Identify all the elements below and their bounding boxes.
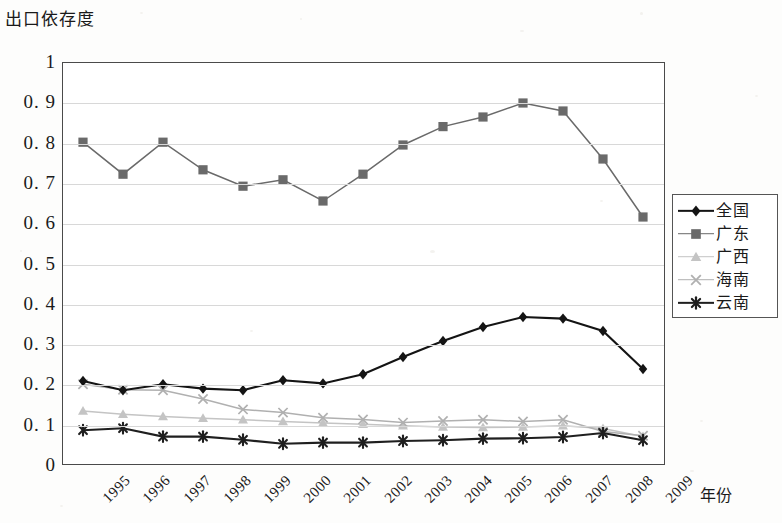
x-tick-label: 2003 — [421, 472, 456, 507]
legend-label: 广东 — [716, 226, 750, 242]
legend-label: 海南 — [716, 272, 750, 288]
legend-key-diamond-icon — [676, 201, 716, 221]
data-point-square — [118, 170, 127, 179]
legend-marker-icon — [686, 201, 706, 221]
legend-marker-icon — [686, 270, 706, 290]
legend-item-云南[interactable]: 云南 — [676, 291, 774, 314]
scan-artifact — [520, 30, 524, 32]
legend-marker-icon — [686, 247, 706, 267]
data-point-square — [318, 196, 327, 205]
data-point-square — [198, 165, 207, 174]
x-tick-label: 2009 — [662, 472, 697, 507]
legend-label: 云南 — [716, 295, 750, 311]
legend-key-triangle-icon — [676, 247, 716, 267]
legend-item-广西[interactable]: 广西 — [676, 245, 774, 268]
scan-artifact — [250, 330, 253, 332]
scan-artifact — [600, 200, 603, 202]
scan-artifact — [690, 470, 694, 472]
series-line — [83, 103, 643, 217]
data-point-square — [558, 106, 567, 115]
x-tick-label: 2007 — [582, 472, 617, 507]
x-tick-label: 1997 — [180, 472, 215, 507]
legend: 全国广东广西海南云南 — [672, 194, 778, 318]
legend-label: 全国 — [716, 203, 750, 219]
series-广东 — [78, 98, 647, 221]
data-point-square — [598, 154, 607, 163]
legend-key-asterisk-icon — [676, 293, 716, 313]
legend-marker-icon — [686, 293, 706, 313]
x-tick-label: 1995 — [99, 472, 134, 507]
scan-artifact — [60, 505, 63, 507]
y-tick-label: 0. 2 — [24, 373, 57, 395]
data-point-diamond — [319, 378, 328, 388]
series-canvas — [63, 63, 663, 463]
x-tick-label: 2002 — [381, 472, 416, 507]
y-tick-label: 0. 8 — [24, 132, 57, 154]
data-point-square — [691, 229, 701, 239]
scan-artifact — [140, 12, 143, 14]
x-tick-label: 1999 — [260, 472, 295, 507]
gridline — [63, 305, 664, 306]
x-tick-label: 2000 — [300, 472, 335, 507]
gridline — [63, 144, 664, 145]
legend-key-square-icon — [676, 224, 716, 244]
data-point-diamond — [559, 313, 568, 323]
gridline — [63, 426, 664, 427]
scan-artifact — [640, 12, 643, 15]
data-point-diamond — [359, 369, 368, 379]
legend-key-cross-icon — [676, 270, 716, 290]
data-point-square — [358, 170, 367, 179]
x-tick-label: 2006 — [542, 472, 577, 507]
legend-label: 广西 — [716, 249, 750, 265]
data-point-triangle — [691, 251, 702, 260]
x-tick-label: 2001 — [341, 472, 376, 507]
y-tick-label: 0. 9 — [24, 91, 57, 113]
legend-item-广东[interactable]: 广东 — [676, 222, 774, 245]
series-全国 — [79, 312, 648, 396]
scan-artifact — [20, 250, 22, 252]
x-tick-label: 2005 — [501, 472, 536, 507]
x-tick-label: 2004 — [461, 472, 496, 507]
gridline — [63, 345, 664, 346]
y-tick-label: 0. 6 — [24, 212, 57, 234]
data-point-diamond — [479, 322, 488, 332]
data-point-diamond — [279, 375, 288, 385]
gridline — [63, 265, 664, 266]
gridline — [63, 103, 664, 104]
data-point-square — [438, 122, 447, 131]
y-tick-label: 1 — [46, 51, 57, 73]
x-tick-label: 2008 — [622, 472, 657, 507]
data-point-diamond — [239, 385, 248, 395]
scan-artifact — [755, 95, 758, 97]
scan-artifact — [350, 500, 353, 502]
y-tick-label: 0. 3 — [24, 333, 57, 355]
y-tick-label: 0. 5 — [24, 253, 57, 275]
gridline — [63, 184, 664, 185]
y-tick-label: 0. 4 — [24, 293, 57, 315]
data-point-square — [158, 138, 167, 147]
data-point-square — [478, 112, 487, 121]
legend-item-海南[interactable]: 海南 — [676, 268, 774, 291]
data-point-triangle — [78, 406, 88, 415]
x-axis-title: 年份 — [700, 482, 732, 506]
data-point-asterisk — [692, 297, 700, 308]
scan-artifact — [430, 250, 435, 253]
data-point-square — [78, 138, 87, 147]
data-point-square — [638, 212, 647, 221]
scan-artifact — [300, 18, 302, 20]
data-point-diamond — [399, 352, 408, 362]
y-axis-title: 出口依存度 — [5, 5, 95, 30]
y-tick-label: 0. 7 — [24, 172, 57, 194]
chart-container: 出口依存度 00. 10. 20. 30. 40. 50. 60. 70. 80… — [0, 0, 782, 523]
scan-artifact — [700, 420, 703, 422]
legend-marker-icon — [686, 224, 706, 244]
x-tick-label: 1998 — [220, 472, 255, 507]
plot-area — [62, 62, 665, 465]
legend-item-全国[interactable]: 全国 — [676, 199, 774, 222]
data-point-cross — [691, 275, 701, 285]
gridline — [63, 385, 664, 386]
data-point-square — [398, 140, 407, 149]
gridline — [63, 224, 664, 225]
y-axis-tick-labels: 00. 10. 20. 30. 40. 50. 60. 70. 80. 91 — [0, 62, 56, 465]
x-axis-tick-labels: 1995199619971998199920002001200220032004… — [0, 468, 782, 523]
